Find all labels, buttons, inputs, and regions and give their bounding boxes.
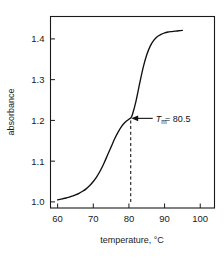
y-tick-label: 1.4: [31, 33, 44, 44]
y-axis-title: absorbance: [6, 88, 16, 135]
x-tick-label: 80: [124, 213, 135, 224]
y-axis-tick-labels: 1.01.11.21.31.4: [31, 33, 44, 207]
data-series-melting-curve: [58, 30, 183, 200]
tm-annotation-value: = 80.5: [165, 114, 190, 124]
x-axis-title: temperature, °C: [100, 235, 164, 245]
y-tick-label: 1.1: [31, 156, 44, 167]
tm-left-arrow-icon: [131, 115, 153, 121]
x-tick-label: 100: [192, 213, 208, 224]
y-tick-label: 1.2: [31, 115, 44, 126]
x-tick-label: 70: [88, 213, 99, 224]
x-axis-tick-labels: 60708090100: [52, 213, 208, 224]
x-axis-ticks: [58, 204, 201, 209]
x-tick-label: 90: [159, 213, 170, 224]
figure-container: 60708090100 1.01.11.21.31.4 T m = 80.5 t…: [0, 0, 224, 258]
melting-curve-chart: 60708090100 1.01.11.21.31.4 T m = 80.5 t…: [0, 0, 224, 258]
x-tick-label: 60: [52, 213, 63, 224]
y-tick-label: 1.3: [31, 74, 44, 85]
y-axis-ticks: [51, 39, 56, 202]
y-tick-label: 1.0: [31, 196, 44, 207]
